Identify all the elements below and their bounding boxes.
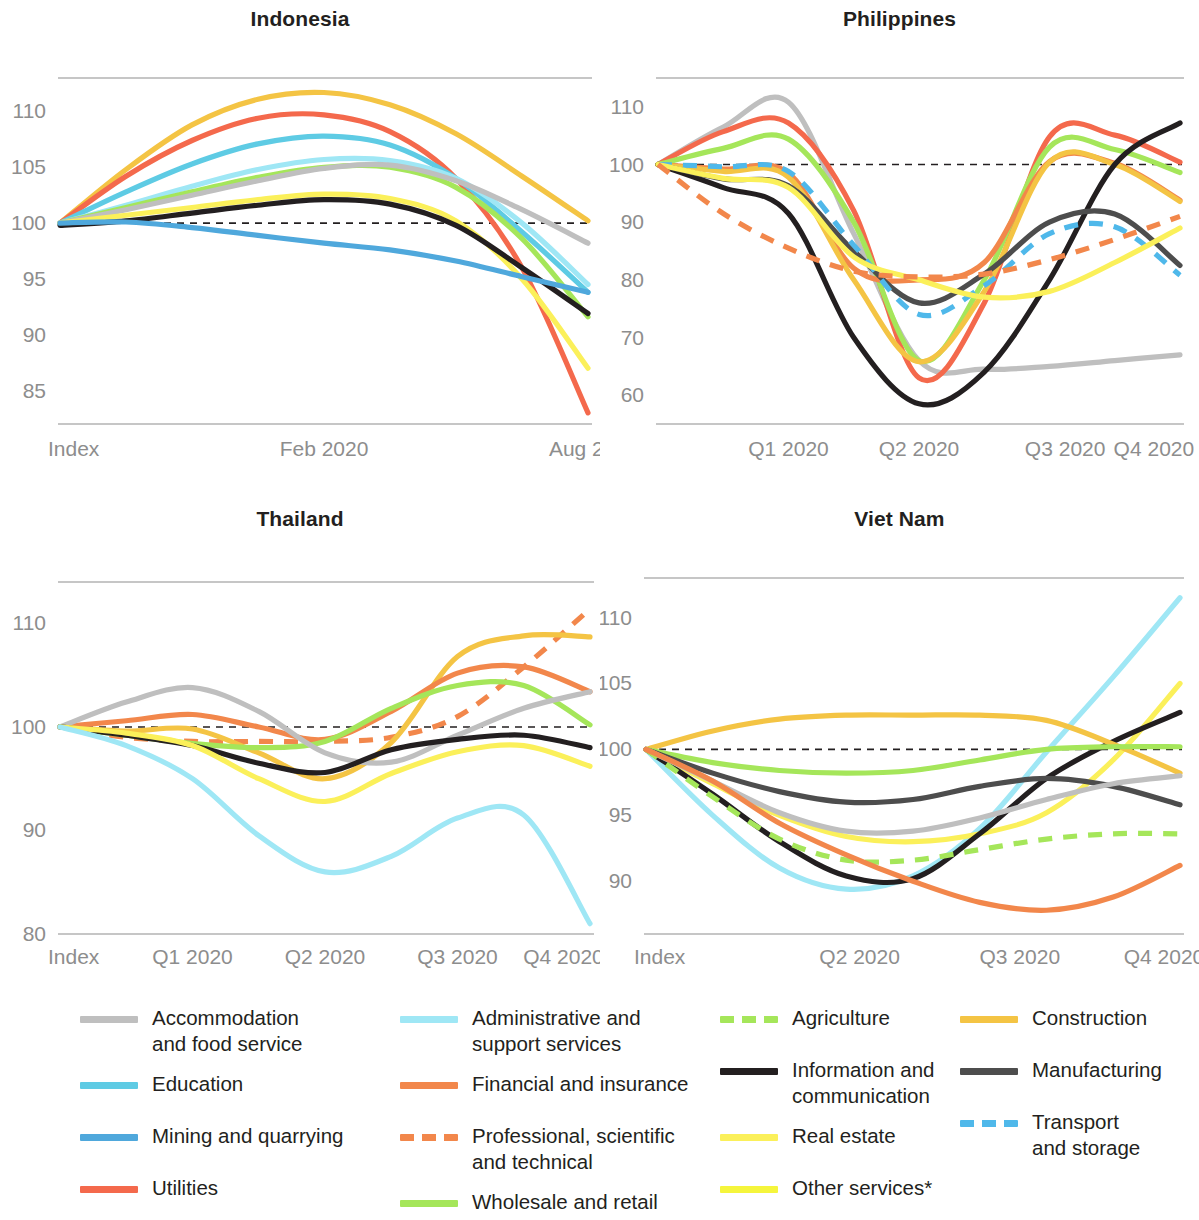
y-tick-label: 100 <box>600 737 632 760</box>
legend-item-agriculture[interactable]: Agriculture <box>720 1005 960 1043</box>
x-tick-label: Q3 2020 <box>980 945 1061 968</box>
legend-label-agriculture: Agriculture <box>792 1005 890 1031</box>
legend-swatch-professional-scientific-and-technical-icon <box>400 1134 458 1141</box>
legend-item-other-services[interactable]: Other services* <box>720 1175 960 1213</box>
x-tick-label: Q4 2020 <box>523 945 600 968</box>
legend-item-professional-scientific-and-technical[interactable]: Professional, scientific and technical <box>400 1123 720 1175</box>
y-tick-label: 95 <box>609 803 632 826</box>
legend-column-2: Administrative and support servicesFinan… <box>400 1005 720 1220</box>
legend-label-wholesale-and-retail: Wholesale and retail <box>472 1189 658 1215</box>
chart-legend: Accommodation and food serviceEducationM… <box>0 1005 1199 1220</box>
y-tick-label: 90 <box>621 210 644 233</box>
plot-svg-vietnam: 9095100105110IndexQ2 2020Q3 2020Q4 2020 <box>600 536 1199 986</box>
panel-title-philippines: Philippines <box>600 0 1199 36</box>
y-tick-label: 105 <box>600 671 632 694</box>
legend-column-4: ConstructionManufacturingTransport and s… <box>960 1005 1199 1220</box>
y-tick-label: 90 <box>23 818 46 841</box>
legend-item-mining-and-quarrying[interactable]: Mining and quarrying <box>80 1123 400 1161</box>
legend-grid: Accommodation and food serviceEducationM… <box>0 1005 1199 1220</box>
x-tick-label: Q3 2020 <box>417 945 498 968</box>
panel-title-vietnam: Viet Nam <box>600 500 1199 536</box>
legend-swatch-manufacturing-icon <box>960 1068 1018 1075</box>
series-line-accommodation-and-food-service <box>658 97 1180 373</box>
legend-item-education[interactable]: Education <box>80 1071 400 1109</box>
legend-item-information-and-communication[interactable]: Information and communication <box>720 1057 960 1109</box>
legend-swatch-utilities-icon <box>80 1186 138 1193</box>
legend-column-3: AgricultureInformation and communication… <box>720 1005 960 1220</box>
y-tick-label: 100 <box>11 715 46 738</box>
plot-area-philippines: 60708090100110Q1 2020Q2 2020Q3 2020Q4 20… <box>600 36 1199 466</box>
legend-item-construction[interactable]: Construction <box>960 1005 1199 1043</box>
legend-item-real-estate[interactable]: Real estate <box>720 1123 960 1161</box>
y-tick-label: 85 <box>23 379 46 402</box>
y-tick-label: 80 <box>621 268 644 291</box>
x-tick-label: Q4 2020 <box>1124 945 1199 968</box>
plot-svg-philippines: 60708090100110Q1 2020Q2 2020Q3 2020Q4 20… <box>600 36 1199 476</box>
legend-swatch-wholesale-and-retail-icon <box>400 1200 458 1207</box>
legend-item-administrative-and-support-services[interactable]: Administrative and support services <box>400 1005 720 1057</box>
y-tick-label: 60 <box>621 383 644 406</box>
series-line-manufacturing <box>646 749 1180 804</box>
chart-panel-indonesia: Indonesia 859095100105110IndexFeb 2020Au… <box>0 0 600 500</box>
plot-area-indonesia: 859095100105110IndexFeb 2020Aug 202 <box>0 36 600 466</box>
legend-label-information-and-communication: Information and communication <box>792 1057 934 1109</box>
legend-swatch-accommodation-and-food-service-icon <box>80 1016 138 1023</box>
x-tick-label: Q1 2020 <box>748 437 829 460</box>
y-tick-label: 110 <box>600 606 632 629</box>
legend-item-financial-and-insurance[interactable]: Financial and insurance <box>400 1071 720 1109</box>
y-tick-label: 80 <box>23 922 46 945</box>
x-tick-label: Q2 2020 <box>819 945 900 968</box>
legend-item-wholesale-and-retail[interactable]: Wholesale and retail <box>400 1189 720 1220</box>
y-tick-label: 70 <box>621 326 644 349</box>
x-tick-label: Index <box>48 945 100 968</box>
plot-svg-indonesia: 859095100105110IndexFeb 2020Aug 202 <box>0 36 600 476</box>
series-line-construction <box>60 635 590 779</box>
legend-swatch-education-icon <box>80 1082 138 1089</box>
x-tick-label: Index <box>48 437 100 460</box>
series-line-professional-scientific-and-technical <box>60 609 590 742</box>
legend-label-mining-and-quarrying: Mining and quarrying <box>152 1123 343 1149</box>
y-tick-label: 100 <box>11 211 46 234</box>
legend-label-utilities: Utilities <box>152 1175 218 1201</box>
legend-label-financial-and-insurance: Financial and insurance <box>472 1071 689 1097</box>
y-tick-label: 110 <box>611 95 644 118</box>
chart-panel-thailand: Thailand 8090100110IndexQ1 2020Q2 2020Q3… <box>0 500 600 1005</box>
x-tick-label: Q2 2020 <box>285 945 366 968</box>
legend-swatch-information-and-communication-icon <box>720 1068 778 1075</box>
legend-item-manufacturing[interactable]: Manufacturing <box>960 1057 1199 1095</box>
x-tick-label: Feb 2020 <box>280 437 369 460</box>
x-tick-label: Q2 2020 <box>879 437 960 460</box>
legend-label-accommodation-and-food-service: Accommodation and food service <box>152 1005 302 1057</box>
chart-panel-vietnam: Viet Nam 9095100105110IndexQ2 2020Q3 202… <box>600 500 1199 1005</box>
legend-label-transport-and-storage: Transport and storage <box>1032 1109 1140 1161</box>
legend-label-construction: Construction <box>1032 1005 1147 1031</box>
x-tick-label: Q4 2020 <box>1114 437 1195 460</box>
x-tick-label: Q3 2020 <box>1025 437 1106 460</box>
series-line-administrative-and-support-services <box>60 727 590 924</box>
x-tick-label: Q1 2020 <box>152 945 233 968</box>
legend-swatch-mining-and-quarrying-icon <box>80 1134 138 1141</box>
y-tick-label: 105 <box>11 155 46 178</box>
legend-label-manufacturing: Manufacturing <box>1032 1057 1162 1083</box>
chart-panel-philippines: Philippines 60708090100110Q1 2020Q2 2020… <box>600 0 1199 500</box>
panel-title-indonesia: Indonesia <box>0 0 600 36</box>
legend-swatch-administrative-and-support-services-icon <box>400 1016 458 1023</box>
y-tick-label: 90 <box>23 323 46 346</box>
legend-item-accommodation-and-food-service[interactable]: Accommodation and food service <box>80 1005 400 1057</box>
series-line-information-and-communication <box>60 200 588 314</box>
y-tick-label: 90 <box>609 869 632 892</box>
x-tick-label: Aug 202 <box>549 437 600 460</box>
plot-area-thailand: 8090100110IndexQ1 2020Q2 2020Q3 2020Q4 2… <box>0 536 600 966</box>
legend-item-transport-and-storage[interactable]: Transport and storage <box>960 1109 1199 1161</box>
y-tick-label: 110 <box>13 611 46 634</box>
legend-label-administrative-and-support-services: Administrative and support services <box>472 1005 641 1057</box>
plot-area-vietnam: 9095100105110IndexQ2 2020Q3 2020Q4 2020 <box>600 536 1199 966</box>
legend-swatch-construction-icon <box>960 1016 1018 1023</box>
plot-svg-thailand: 8090100110IndexQ1 2020Q2 2020Q3 2020Q4 2… <box>0 536 600 986</box>
legend-label-education: Education <box>152 1071 243 1097</box>
x-tick-label: Index <box>634 945 686 968</box>
legend-item-utilities[interactable]: Utilities <box>80 1175 400 1213</box>
legend-swatch-real-estate-icon <box>720 1134 778 1141</box>
y-tick-label: 95 <box>23 267 46 290</box>
panel-grid: Indonesia 859095100105110IndexFeb 2020Au… <box>0 0 1199 1005</box>
